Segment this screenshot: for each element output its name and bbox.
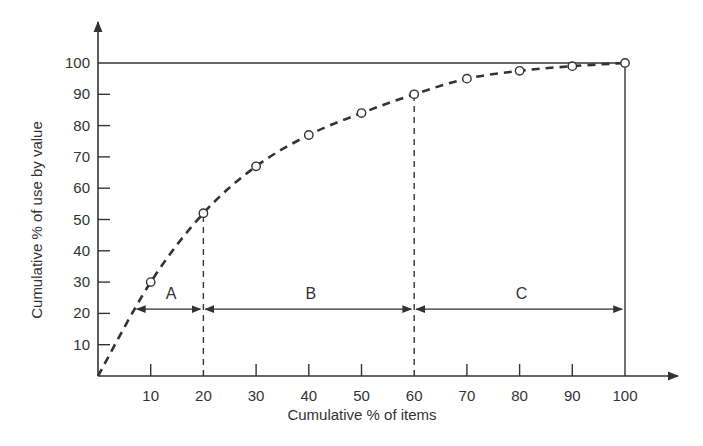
data-point-marker bbox=[199, 209, 207, 217]
y-axis-title: Cumulative % of use by value bbox=[28, 121, 45, 319]
data-point-marker bbox=[621, 59, 629, 67]
x-tick-label: 100 bbox=[612, 387, 637, 404]
y-tick-label: 10 bbox=[73, 336, 90, 353]
x-tick-label: 30 bbox=[248, 387, 265, 404]
x-tick-label: 60 bbox=[406, 387, 423, 404]
zone-label-a: A bbox=[166, 285, 177, 302]
data-point-marker bbox=[305, 131, 313, 139]
y-tick-label: 70 bbox=[73, 148, 90, 165]
y-tick-label: 100 bbox=[65, 54, 90, 71]
zone-label-b: B bbox=[305, 285, 316, 302]
y-tick-label: 50 bbox=[73, 211, 90, 228]
data-series bbox=[98, 59, 629, 376]
y-tick-label: 40 bbox=[73, 242, 90, 259]
y-tick-label: 80 bbox=[73, 117, 90, 134]
axes bbox=[98, 22, 678, 376]
x-axis-title: Cumulative % of items bbox=[287, 406, 436, 423]
data-point-marker bbox=[147, 278, 155, 286]
x-tick-label: 50 bbox=[353, 387, 370, 404]
y-tick-label: 20 bbox=[73, 304, 90, 321]
abc-analysis-chart: 1020304050607080901001020304050607080901… bbox=[0, 0, 703, 446]
data-point-marker bbox=[568, 62, 576, 70]
zone-label-c: C bbox=[516, 285, 528, 302]
abc-zones: ABC bbox=[137, 285, 622, 309]
data-point-marker bbox=[515, 67, 523, 75]
data-point-marker bbox=[252, 162, 260, 170]
x-tick-label: 10 bbox=[142, 387, 159, 404]
x-tick-label: 40 bbox=[300, 387, 317, 404]
x-tick-label: 70 bbox=[459, 387, 476, 404]
x-tick-label: 80 bbox=[511, 387, 528, 404]
data-point-marker bbox=[463, 74, 471, 82]
y-tick-label: 30 bbox=[73, 273, 90, 290]
data-point-marker bbox=[410, 90, 418, 98]
x-tick-label: 90 bbox=[564, 387, 581, 404]
axis-ticks: 1020304050607080901001020304050607080901… bbox=[65, 54, 638, 404]
x-tick-label: 20 bbox=[195, 387, 212, 404]
y-tick-label: 90 bbox=[73, 85, 90, 102]
data-point-marker bbox=[357, 109, 365, 117]
y-tick-label: 60 bbox=[73, 179, 90, 196]
